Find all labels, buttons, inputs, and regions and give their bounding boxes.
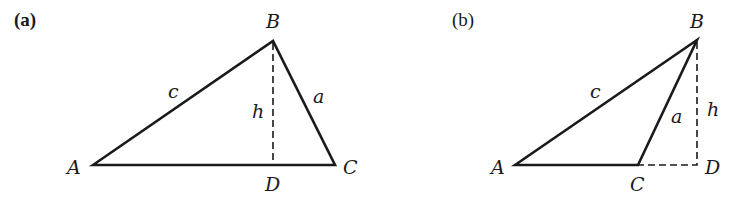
vertex-b-A: A <box>489 156 505 178</box>
side-b-a: a <box>671 105 682 127</box>
vertex-a-D: D <box>264 173 280 195</box>
triangle-figure: (a) A B C D c h a (b) A B C D c a h <box>0 0 735 201</box>
triangle-b <box>515 40 697 165</box>
vertex-b-B: B <box>689 10 704 32</box>
vertex-b-D: D <box>704 156 720 178</box>
vertex-a-C: C <box>343 156 358 178</box>
side-b-c: c <box>590 80 601 102</box>
side-a-c: c <box>168 80 179 102</box>
panel-b: (b) A B C D c a h <box>452 9 720 195</box>
side-b-h: h <box>707 98 719 120</box>
panel-a-label: (a) <box>14 9 36 31</box>
side-a-a: a <box>313 85 324 107</box>
panel-b-label: (b) <box>452 9 474 31</box>
triangle-a <box>93 41 335 165</box>
vertex-b-C: C <box>630 173 645 195</box>
vertex-a-A: A <box>65 156 81 178</box>
vertex-a-B: B <box>265 10 280 32</box>
side-a-h: h <box>252 100 264 122</box>
panel-a: (a) A B C D c h a <box>14 9 358 195</box>
